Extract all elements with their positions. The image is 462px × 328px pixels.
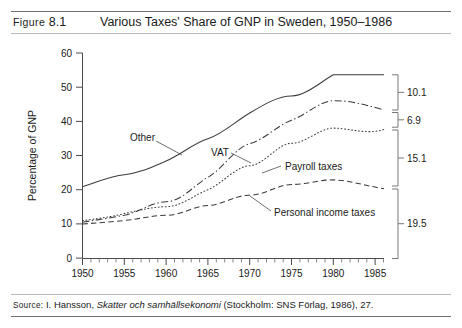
x-axis-major-ticks [83,259,376,266]
source-author: I. Hansson, [46,299,94,310]
leader-payroll [262,166,281,173]
y-axis-title: Percentage of GNP [26,110,38,201]
source-prefix: Source: [13,301,43,310]
source-note: Source: I. Hansson, Skatter och samhälls… [13,299,373,310]
x-axis-minor-ticks [91,259,384,263]
y-tick-label: 10 [61,218,73,229]
y-tick-label: 60 [61,48,73,59]
series-label-payroll-taxes: Payroll taxes [285,161,342,172]
right-bracket-group: 10.1 6.9 15.1 19.5 [392,75,427,259]
y-tick-label: 50 [61,82,73,93]
x-tick-label: 1950 [71,268,94,279]
y-tick-label: 30 [61,150,73,161]
y-tick-label: 0 [66,253,72,264]
source-rule-top [11,294,451,295]
y-tick-label: 40 [61,116,73,127]
x-tick-label: 1980 [322,268,345,279]
bottom-rule [11,316,451,317]
plot-area: 60 50 40 30 20 10 0 Percentage of GNP [0,0,462,328]
x-tick-label: 1960 [155,268,178,279]
x-tick-label: 1965 [197,268,220,279]
bracket-2 [392,113,398,128]
bracket-label-3: 15.1 [407,153,427,164]
leader-personal [250,196,271,211]
x-axis-tick-labels: 1950 1955 1960 1965 1970 1975 1980 1985 [71,268,386,279]
source-title: Skatter och samhällsekonomi [97,299,221,310]
x-tick-label: 1985 [364,268,387,279]
leader-vat [231,153,251,163]
bracket-4 [392,189,398,259]
x-tick-label: 1975 [280,268,303,279]
bracket-label-4: 19.5 [407,218,427,229]
bracket-3 [392,130,398,186]
figure-container: Figure 8.1 Various Taxes' Share of GNP i… [0,0,462,328]
bracket-label-2: 6.9 [407,115,421,126]
source-rest: (Stockholm: SNS Förlag, 1986), 27. [223,299,373,310]
leader-other [156,141,182,155]
x-tick-label: 1955 [113,268,136,279]
series-label-personal-income-taxes: Personal income taxes [274,207,375,218]
x-tick-label: 1970 [239,268,262,279]
series-label-other: Other [130,132,156,143]
y-axis-tick-labels: 60 50 40 30 20 10 0 [61,48,73,264]
y-tick-label: 20 [61,184,73,195]
bracket-label-1: 10.1 [407,87,427,98]
y-axis-ticks [76,53,83,258]
bracket-1 [392,75,398,110]
line-chart: 60 50 40 30 20 10 0 Percentage of GNP [0,0,462,328]
series-label-vat: VAT [211,147,229,158]
